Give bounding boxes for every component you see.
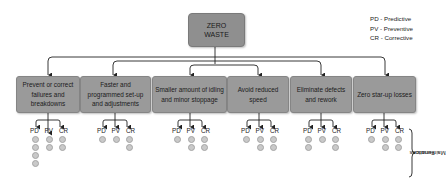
circle-icon <box>126 136 133 143</box>
function-label-cr: CR <box>270 127 279 135</box>
root-line1: ZERO <box>204 21 229 30</box>
circle-icon <box>174 136 181 143</box>
function-label-pv: PV <box>318 127 326 135</box>
function-label-pd: PD <box>303 127 312 135</box>
function-label-pv: PV <box>112 127 120 135</box>
circle-icon <box>305 136 312 143</box>
dot-column-pv <box>44 136 55 168</box>
function-label-cr: CR <box>395 127 404 135</box>
function-label-pv: PV <box>256 127 264 135</box>
dot-column-cr <box>199 136 210 152</box>
dot-column-cr <box>393 136 404 152</box>
function-label-pd: PD <box>97 127 106 135</box>
circle-icon <box>257 136 264 143</box>
circle-icon <box>395 136 402 143</box>
circle-icon <box>32 136 39 143</box>
category-label: Zero star-up losses <box>357 90 412 99</box>
legend-item-predictive: PD - Predictive <box>370 14 413 24</box>
category-label: Prevent or correct failures and breakdow… <box>19 80 77 108</box>
category-label: Eliminate defects and rework <box>293 85 349 104</box>
dot-column-pv <box>317 136 328 152</box>
function-label-cr: CR <box>59 127 68 135</box>
category-node-defects: Eliminate defects and rework <box>290 76 352 113</box>
circle-icon <box>243 136 250 143</box>
circle-icon <box>332 144 339 151</box>
legend: PD - Predictive PV - Preventive CR - Cor… <box>370 14 413 43</box>
dot-column-cr <box>124 136 135 152</box>
legend-item-corrective: CR - Corrective <box>370 33 413 43</box>
category-node-startup: Zero star-up losses <box>353 76 416 113</box>
side-label-line2: Functions <box>406 149 439 156</box>
category-node-failures: Prevent or correct failures and breakdow… <box>16 76 80 113</box>
circle-icon <box>113 136 120 143</box>
dot-column-pv <box>255 136 266 152</box>
circle-icon <box>32 160 39 167</box>
function-group: PDPVCR <box>172 127 210 152</box>
circle-icon <box>305 144 312 151</box>
function-label-pd: PD <box>366 127 375 135</box>
zero-waste-node: ZERO WASTE <box>188 13 245 47</box>
dot-column-pd <box>172 136 183 152</box>
category-label: Smaller amount of idling and minor stopp… <box>155 85 224 104</box>
function-label-cr: CR <box>332 127 341 135</box>
category-node-speed: Avoid reduced speed <box>227 76 289 113</box>
circle-icon <box>99 136 106 143</box>
function-group: PDPVCR <box>97 127 135 152</box>
dot-column-pv <box>380 136 391 152</box>
function-label-pv: PV <box>45 127 53 135</box>
circle-icon <box>395 144 402 151</box>
circle-icon <box>126 144 133 151</box>
circle-icon <box>59 136 66 143</box>
circle-icon <box>382 144 389 151</box>
dot-column-cr <box>57 136 68 168</box>
dot-column-cr <box>268 136 279 152</box>
circle-icon <box>382 136 389 143</box>
function-group: PDPVCR <box>303 127 341 152</box>
legend-item-preventive: PV - Preventive <box>370 24 413 34</box>
function-group: PDPVCR <box>241 127 279 152</box>
function-label-pd: PD <box>30 127 39 135</box>
function-label-pv: PV <box>187 127 195 135</box>
root-line2: WASTE <box>204 30 229 39</box>
circle-icon <box>368 136 375 143</box>
circle-icon <box>188 136 195 143</box>
circle-icon <box>270 144 277 151</box>
circle-icon <box>201 136 208 143</box>
function-group: PDPVCR <box>30 127 68 168</box>
dot-column-pd <box>303 136 314 152</box>
dot-column-pd <box>366 136 377 152</box>
dot-column-pd <box>30 136 41 168</box>
function-label-pv: PV <box>381 127 389 135</box>
function-label-pd: PD <box>241 127 250 135</box>
circle-icon <box>201 144 208 151</box>
circle-icon <box>332 136 339 143</box>
category-label: Faster and programmed set-up and adjustm… <box>83 80 148 108</box>
category-node-idling: Smaller amount of idling and minor stopp… <box>152 76 227 113</box>
dot-column-pd <box>97 136 108 152</box>
circle-icon <box>46 144 53 151</box>
circle-icon <box>270 136 277 143</box>
circle-icon <box>188 144 195 151</box>
dot-column-pd <box>241 136 252 152</box>
function-label-cr: CR <box>201 127 210 135</box>
dot-column-pv <box>111 136 122 152</box>
function-label-cr: CR <box>126 127 135 135</box>
function-label-pd: PD <box>172 127 181 135</box>
category-node-setup: Faster and programmed set-up and adjustm… <box>80 76 151 113</box>
category-label: Avoid reduced speed <box>230 85 286 104</box>
circle-icon <box>257 144 264 151</box>
function-group: PDPVCR <box>366 127 404 152</box>
circle-icon <box>319 136 326 143</box>
circle-icon <box>32 152 39 159</box>
circle-icon <box>32 144 39 151</box>
maintenance-functions-label: Maintenance Functions <box>414 126 438 178</box>
dot-column-cr <box>330 136 341 152</box>
circle-icon <box>59 144 66 151</box>
dot-column-pv <box>186 136 197 152</box>
circle-icon <box>46 136 53 143</box>
